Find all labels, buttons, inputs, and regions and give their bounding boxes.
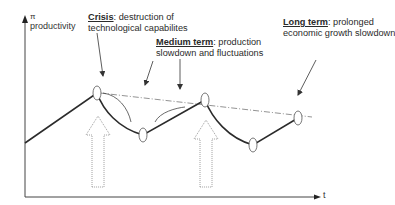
x-axis-arrow-icon (314, 195, 321, 200)
y-axis (22, 15, 28, 197)
medium-pointer-arrow-icon-1 (145, 61, 153, 85)
crisis-desc-2: technological capabilites (88, 23, 188, 34)
shock-up-arrow-icon-2 (194, 120, 218, 187)
long-term: Long term (283, 17, 328, 27)
crisis-term: Crisis (88, 12, 114, 22)
trough-marker-1 (139, 128, 147, 142)
peak-marker-2 (201, 93, 209, 107)
y-axis-arrow-icon (22, 15, 28, 23)
y-axis-label: productivity (30, 21, 76, 31)
medium-term-annotation: Medium term: production slowdown and flu… (156, 37, 263, 59)
long-pointer-arrow-icon (298, 60, 316, 95)
medium-term: Medium term (156, 37, 213, 47)
x-axis-label: t (323, 190, 326, 200)
productivity-curve (25, 93, 298, 145)
crisis-desc-1: destruction of (119, 12, 174, 22)
decline-arc (103, 93, 131, 122)
crisis-pointer-arrow-icon (97, 33, 103, 76)
long-desc-1: prolonged (333, 17, 374, 27)
x-axis (25, 195, 321, 200)
end-marker (294, 111, 302, 125)
long-desc-2: economic growth slowdown (283, 28, 395, 39)
medium-desc-1: production (218, 37, 261, 47)
shock-up-arrow-icon-1 (86, 116, 110, 187)
peak-marker-1 (93, 86, 101, 100)
trough-marker-2 (249, 138, 257, 152)
medium-desc-2: slowdown and fluctuations (156, 48, 263, 59)
long-term-annotation: Long term: prolonged economic growth slo… (283, 17, 395, 39)
crisis-annotation: Crisis: destruction of technological cap… (88, 12, 188, 34)
